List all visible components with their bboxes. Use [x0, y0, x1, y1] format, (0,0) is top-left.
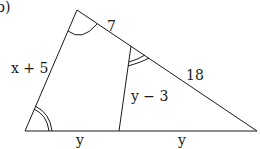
base-angle-arc-inner: [35, 106, 52, 131]
label-base-right: y: [177, 132, 186, 148]
top-angle-arc: [68, 24, 97, 35]
similar-triangles-diagram: b) x + 5 7 18 y − 3 y y: [0, 0, 260, 149]
label-top-right-short: 7: [107, 18, 116, 34]
label-base-left: y: [75, 132, 84, 148]
label-inner-segment: y − 3: [130, 88, 168, 104]
label-left-side: x + 5: [11, 60, 48, 76]
inner-angle-arc-outer: [128, 58, 149, 66]
label-top-right-long: 18: [186, 67, 204, 83]
outer-triangle: [25, 10, 257, 131]
part-label: b): [0, 0, 10, 15]
base-angle-arc-outer: [34, 109, 49, 131]
inner-parallel-segment: [119, 46, 131, 131]
